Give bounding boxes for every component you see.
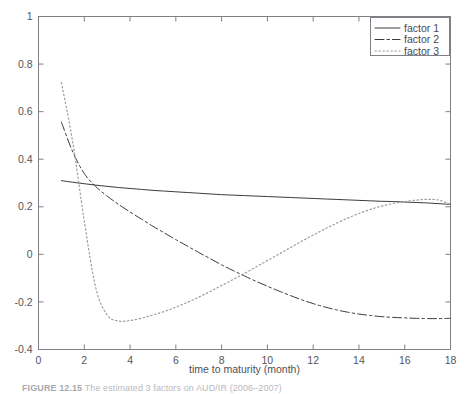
x-tick-label: 0 (36, 354, 42, 366)
legend-label-2: factor 2 (404, 33, 439, 45)
factor-loadings-chart: 024681012141618 -0.4-0.200.20.40.60.81 t… (0, 0, 468, 394)
plot-frame (39, 17, 451, 350)
y-tick-label: -0.2 (14, 296, 32, 308)
figure-caption-label: FIGURE 12.15 (22, 384, 82, 393)
x-tick-label: 6 (173, 354, 179, 366)
y-tick-label: 0.6 (18, 105, 33, 117)
x-tick-label: 18 (445, 354, 457, 366)
legend-label-3: factor 3 (404, 45, 439, 57)
y-axis-tick-labels: -0.4-0.200.20.40.60.81 (14, 10, 32, 355)
x-tick-label: 4 (127, 354, 133, 366)
x-tick-label: 14 (353, 354, 365, 366)
figure-container: 024681012141618 -0.4-0.200.20.40.60.81 t… (0, 0, 468, 394)
legend-label-1: factor 1 (404, 22, 439, 34)
y-tick-label: 0 (27, 248, 33, 260)
x-tick-label: 2 (81, 354, 87, 366)
chart-legend[interactable]: factor 1factor 2factor 3 (371, 18, 450, 57)
y-tick-label: 0.4 (18, 153, 33, 165)
y-tick-label: 1 (27, 10, 33, 22)
y-tick-label: 0.2 (18, 200, 33, 212)
x-tick-label: 12 (307, 354, 319, 366)
y-tick-label: 0.8 (18, 58, 33, 70)
figure-caption-body: The estimated 3 factors on AUD/IR (2006–… (85, 384, 282, 393)
figure-caption-strip: FIGURE 12.15 The estimated 3 factors on … (0, 384, 468, 394)
figure-caption: FIGURE 12.15 The estimated 3 factors on … (22, 384, 282, 393)
plot-area-border (39, 17, 451, 350)
y-tick-label: -0.4 (14, 343, 32, 355)
x-tick-label: 16 (399, 354, 411, 366)
x-axis-title: time to maturity (month) (189, 363, 300, 375)
